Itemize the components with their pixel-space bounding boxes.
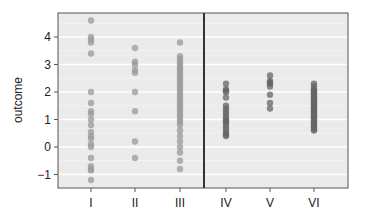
data-point xyxy=(177,127,183,133)
data-point xyxy=(177,138,183,144)
data-point xyxy=(177,39,183,45)
data-point xyxy=(88,167,94,173)
x-tick-label: II xyxy=(132,196,139,210)
data-point xyxy=(223,94,229,100)
data-point xyxy=(132,45,138,51)
x-tick-label: I xyxy=(89,196,92,210)
data-point xyxy=(88,177,94,183)
data-point xyxy=(88,155,94,161)
series-VI xyxy=(311,81,317,134)
data-point xyxy=(88,100,94,106)
y-tick-label: 1 xyxy=(44,113,51,127)
data-point xyxy=(311,127,317,133)
data-point xyxy=(132,70,138,76)
y-tick-label: 2 xyxy=(44,85,51,99)
y-tick-label: −1 xyxy=(37,168,51,182)
data-point xyxy=(132,61,138,67)
data-point xyxy=(223,81,229,87)
data-point xyxy=(132,138,138,144)
y-axis-label: outcome xyxy=(11,77,25,123)
data-point xyxy=(177,122,183,128)
data-point xyxy=(88,116,94,122)
data-point xyxy=(267,92,273,98)
data-point xyxy=(267,72,273,78)
y-tick-label: 3 xyxy=(44,58,51,72)
x-tick-label: IV xyxy=(220,196,231,210)
y-tick-label: 0 xyxy=(44,140,51,154)
data-point xyxy=(88,136,94,142)
data-point xyxy=(223,133,229,139)
data-point xyxy=(88,89,94,95)
data-point xyxy=(177,149,183,155)
data-point xyxy=(132,108,138,114)
x-tick-label: V xyxy=(266,196,274,210)
data-point xyxy=(267,105,273,111)
data-point xyxy=(88,50,94,56)
y-axis: −101234 xyxy=(37,30,58,182)
data-point xyxy=(88,144,94,150)
x-tick-label: VI xyxy=(308,196,319,210)
data-point xyxy=(88,17,94,23)
chart: −101234 IIIIIIIVVVI outcome xyxy=(0,0,365,220)
series-IV xyxy=(223,81,229,140)
data-point xyxy=(132,89,138,95)
data-point xyxy=(88,122,94,128)
data-point xyxy=(177,133,183,139)
data-point xyxy=(177,158,183,164)
data-point xyxy=(177,144,183,150)
data-point xyxy=(267,100,273,106)
x-tick-label: III xyxy=(175,196,185,210)
data-point xyxy=(88,111,94,117)
data-point xyxy=(177,166,183,172)
data-point xyxy=(88,39,94,45)
x-axis: IIIIIIIVVVI xyxy=(89,188,319,210)
series-III xyxy=(177,39,183,172)
data-point xyxy=(132,155,138,161)
data-point xyxy=(267,83,273,89)
y-tick-label: 4 xyxy=(44,30,51,44)
data-point xyxy=(223,89,229,95)
